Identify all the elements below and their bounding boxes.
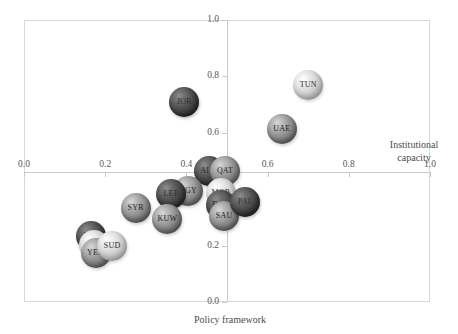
x-tick-label: 0.8 [343,160,355,170]
x-tick-mark [268,172,269,177]
y-tick-mark [222,302,227,303]
y-tick-label: 0.0 [207,297,219,307]
y-tick-mark [222,76,227,77]
data-point[interactable]: TUN [293,70,323,100]
data-point-label: SYR [128,204,144,212]
data-point[interactable]: JOR [169,87,199,117]
y-tick-mark [222,20,227,21]
x-axis-title: Policy framework [194,314,266,327]
y-tick-mark [222,133,227,134]
scatter-chart: 0.00.20.40.60.81.00.00.20.40.60.81.0 TUN… [0,0,458,334]
y-tick-label: 0.2 [207,241,219,251]
x-tick-mark [105,172,106,177]
y-tick-label: 0.6 [207,128,219,138]
x-tick-label: 0.6 [262,160,274,170]
data-point-label: LEB [164,190,180,198]
data-point-label: QAT [217,167,233,175]
x-tick-mark [430,172,431,177]
data-point-label: KUW [157,215,177,223]
y-tick-mark [222,246,227,247]
x-tick-label: 0.0 [18,160,30,170]
y-axis-title: Institutional capacity [374,139,454,164]
data-point-label: UAE [273,125,290,133]
y-tick-label: 1.0 [207,15,219,25]
x-tick-label: 0.2 [99,160,111,170]
x-tick-mark [349,172,350,177]
data-point-label: TUN [300,81,317,89]
data-point[interactable]: SUD [97,231,127,261]
data-point[interactable]: KUW [152,204,182,234]
data-point-label: JOR [177,98,192,106]
y-tick-label: 0.8 [207,72,219,82]
data-point-label: SAU [216,212,233,220]
x-tick-mark [24,172,25,177]
data-point[interactable]: SYR [121,193,151,223]
data-point-label: SUD [104,242,121,250]
data-point[interactable]: UAE [267,114,297,144]
data-point-label: PAL [238,198,253,206]
data-point[interactable]: PAL [230,187,260,217]
x-tick-label: 0.4 [180,160,192,170]
